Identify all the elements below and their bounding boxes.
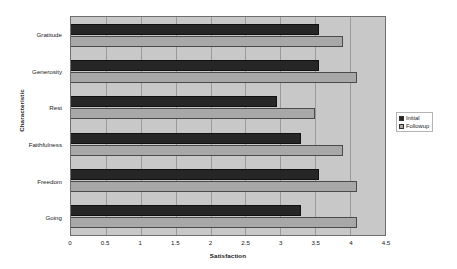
gridline — [385, 17, 386, 235]
plot-area — [70, 16, 386, 236]
y-tick-label-freedom: Freedom — [8, 163, 66, 200]
bar-group — [71, 90, 385, 126]
y-tick-label-generosity: Generosity — [8, 53, 66, 90]
x-axis-title: Satisfaction — [70, 252, 386, 259]
legend-swatch-icon-followup — [399, 124, 404, 129]
x-tick-label: 3.5 — [311, 239, 320, 246]
x-tick-label: 0.5 — [101, 239, 110, 246]
y-axis-tick-labels: Gratitude Generosity Rest Faithfulness F… — [8, 16, 66, 236]
bar-going-followup — [71, 217, 357, 228]
legend-label-followup: Followup — [406, 123, 429, 129]
x-tick-label: 2.5 — [241, 239, 250, 246]
bar-gratitude-followup — [71, 36, 343, 47]
legend-label-initial: Initial — [406, 115, 420, 121]
bar-faithfulness-initial — [71, 133, 301, 144]
legend-item-initial: Initial — [399, 115, 429, 121]
legend-item-followup: Followup — [399, 123, 429, 129]
bar-faithfulness-followup — [71, 145, 343, 156]
legend: Initial Followup — [396, 112, 433, 132]
x-tick-label: 4.5 — [382, 239, 391, 246]
bar-group — [71, 162, 385, 198]
bar-generosity-followup — [71, 72, 357, 83]
bar-freedom-initial — [71, 169, 319, 180]
x-tick-label: 0 — [68, 239, 71, 246]
bars-layer — [71, 17, 385, 235]
x-tick-label: 3 — [279, 239, 282, 246]
x-tick-label: 2 — [209, 239, 212, 246]
y-tick-label-gratitude: Gratitude — [8, 16, 66, 53]
bar-group — [71, 53, 385, 89]
x-axis-tick-labels: 00.511.522.533.544.5 — [70, 239, 386, 249]
bar-freedom-followup — [71, 181, 357, 192]
x-tick-label: 4 — [349, 239, 352, 246]
y-tick-label-faithfulness: Faithfulness — [8, 126, 66, 163]
bar-rest-initial — [71, 96, 277, 107]
bar-chart: Characteristic Gratitude Generosity Rest… — [0, 0, 457, 269]
bar-gratitude-initial — [71, 24, 319, 35]
y-tick-label-going: Going — [8, 199, 66, 236]
bar-group — [71, 17, 385, 53]
bar-group — [71, 199, 385, 235]
x-tick-label: 1 — [138, 239, 141, 246]
bar-group — [71, 126, 385, 162]
bar-generosity-initial — [71, 60, 319, 71]
bar-going-initial — [71, 205, 301, 216]
y-tick-label-rest: Rest — [8, 89, 66, 126]
bar-rest-followup — [71, 108, 315, 119]
x-tick-label: 1.5 — [171, 239, 180, 246]
legend-swatch-icon-initial — [399, 116, 404, 121]
